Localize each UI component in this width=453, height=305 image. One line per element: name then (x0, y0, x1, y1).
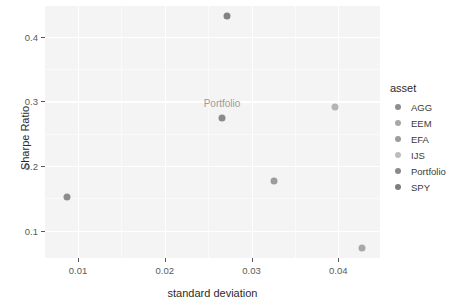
legend-key-icon (390, 147, 406, 163)
legend-item-list: AGGEEMEFAIJSPortfolioSPY (390, 99, 446, 195)
plot-panel: Portfolio (45, 6, 380, 258)
legend-item[interactable]: EEM (390, 115, 446, 131)
scatter-plot-figure: Portfolio 0.10.20.30.40.010.020.030.04 s… (0, 0, 453, 305)
legend-key-icon (390, 163, 406, 179)
legend-key-icon (390, 131, 406, 147)
grid-line (338, 6, 339, 258)
x-tick-label: 0.01 (69, 265, 88, 276)
grid-line (45, 69, 380, 70)
legend-item-label: Portfolio (411, 166, 446, 177)
legend-key-icon (390, 99, 406, 115)
grid-line (165, 6, 166, 258)
data-point (63, 194, 70, 201)
legend-item-label: EEM (411, 118, 432, 129)
y-tick-mark (41, 166, 45, 167)
point-annotation-label: Portfolio (204, 98, 241, 109)
x-tick-mark (252, 258, 253, 262)
grid-line (121, 6, 122, 258)
x-tick-mark (165, 258, 166, 262)
grid-line (295, 6, 296, 258)
grid-line (45, 166, 380, 167)
data-point (224, 13, 231, 20)
legend-key-icon (390, 179, 406, 195)
data-point (219, 115, 226, 122)
legend-item-label: SPY (411, 182, 430, 193)
x-axis-title: standard deviation (45, 287, 380, 299)
data-point (358, 244, 365, 251)
y-tick-mark (41, 37, 45, 38)
x-tick-mark (78, 258, 79, 262)
legend-key-icon (390, 115, 406, 131)
grid-line (45, 198, 380, 199)
data-point (271, 178, 278, 185)
x-tick-mark (338, 258, 339, 262)
y-tick-mark (41, 101, 45, 102)
x-tick-label: 0.04 (329, 265, 348, 276)
legend-item[interactable]: AGG (390, 99, 446, 115)
y-tick-label: 0.4 (25, 31, 38, 42)
y-axis-title: Sharpe Ratio (19, 68, 31, 208)
grid-line (78, 6, 79, 258)
legend: asset AGGEEMEFAIJSPortfolioSPY (390, 82, 446, 195)
legend-item-label: AGG (411, 102, 432, 113)
grid-line (45, 37, 380, 38)
legend-item[interactable]: IJS (390, 147, 446, 163)
grid-line (252, 6, 253, 258)
legend-item-label: IJS (411, 150, 425, 161)
legend-item[interactable]: SPY (390, 179, 446, 195)
grid-line (208, 6, 209, 258)
y-tick-label: 0.1 (25, 225, 38, 236)
grid-line (45, 231, 380, 232)
legend-item-label: EFA (411, 134, 429, 145)
data-point (331, 103, 338, 110)
x-tick-label: 0.03 (242, 265, 261, 276)
grid-line (45, 134, 380, 135)
y-tick-mark (41, 231, 45, 232)
x-tick-label: 0.02 (156, 265, 175, 276)
legend-item[interactable]: EFA (390, 131, 446, 147)
legend-title: asset (390, 82, 446, 94)
legend-item[interactable]: Portfolio (390, 163, 446, 179)
